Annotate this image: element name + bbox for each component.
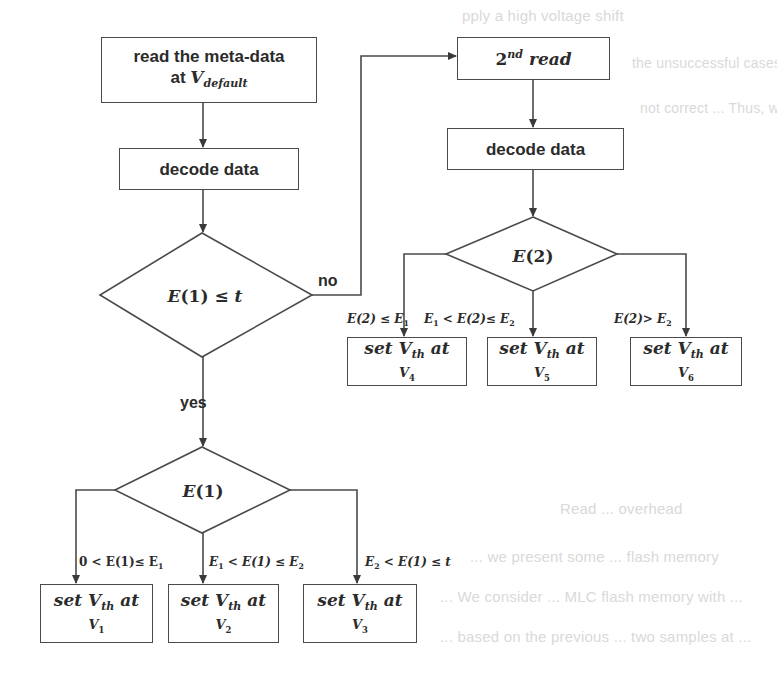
target-voltage-v6: V6 <box>678 365 694 386</box>
second-read-box: 2nd read <box>457 37 610 80</box>
set-vth-v1-box: set Vth at V1 <box>40 584 153 643</box>
set-vth-v6-box: set Vth at V6 <box>630 337 742 386</box>
set-vth-v2-box: set Vth at V2 <box>168 584 279 643</box>
set-vth-v4-box: set Vth at V4 <box>347 337 467 386</box>
set-vth-v5-box: set Vth at V5 <box>487 337 597 386</box>
edge-label-e2-gt-e2: E(2)> E2 <box>614 312 672 328</box>
decode-data-label: decode data <box>486 139 585 160</box>
edge-label-e1-lt-e1-le-e2: E1 < E(1) ≤ E2 <box>209 555 304 571</box>
edge-label-e1-lt-e2-le-e2: E1 < E(2)≤ E2 <box>424 312 515 328</box>
check-e1-label: E(1) <box>183 481 224 501</box>
decode-data-label: decode data <box>159 159 258 180</box>
target-voltage-v2: V2 <box>216 617 232 638</box>
read-meta-data-line1: read the meta-data <box>133 46 284 67</box>
edge-label-0-lt-e1-le-e1: 0 < E(1)≤ E1 <box>79 555 163 571</box>
edge-label-e2-lt-e1-le-t: E2 < E(1) ≤ t <box>365 555 451 571</box>
second-read-label: 2nd read <box>495 48 571 69</box>
target-voltage-v1: V1 <box>89 617 105 638</box>
no-branch-label: no <box>318 272 338 290</box>
at-text: at <box>170 68 190 87</box>
set-vth-label: set Vth at <box>181 590 266 617</box>
arrow-no-branch <box>312 56 456 295</box>
set-vth-label: set Vth at <box>317 590 402 617</box>
target-voltage-v3: V3 <box>352 617 368 638</box>
set-vth-label: set Vth at <box>364 338 449 365</box>
set-vth-label: set Vth at <box>643 338 728 365</box>
read-meta-data-box: read the meta-data at Vdefault <box>101 37 317 103</box>
check-e1-le-t-label: E(1) ≤ t <box>168 286 243 306</box>
edge-label-e2-le-e1: E(2) ≤ E1 <box>347 312 409 328</box>
yes-branch-label: yes <box>180 394 207 412</box>
decode-data-box-right: decode data <box>447 128 624 170</box>
set-vth-label: set Vth at <box>54 590 139 617</box>
decode-data-box-left: decode data <box>119 148 299 190</box>
target-voltage-v5: V5 <box>534 365 550 386</box>
v-default-var: Vdefault <box>190 67 247 87</box>
flowchart-diagram: pply a high voltage shift the unsuccessf… <box>0 0 777 681</box>
check-e2-label: E(2) <box>513 246 554 266</box>
target-voltage-v4: V4 <box>399 365 415 386</box>
read-meta-data-line2: at Vdefault <box>170 67 247 94</box>
set-vth-label: set Vth at <box>499 338 584 365</box>
set-vth-v3-box: set Vth at V3 <box>303 584 417 643</box>
